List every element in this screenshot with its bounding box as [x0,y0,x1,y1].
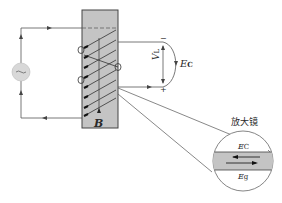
emf-label: EC [180,59,193,69]
eg-subscript: g [244,173,248,181]
magnifier-top-label: EC [238,143,249,151]
arrow-up-icon [161,45,165,50]
voltage-symbol: V [151,54,161,61]
b-field-label: B [94,118,103,129]
arrow-up-icon [19,90,23,95]
arrow-left-icon [42,116,47,120]
arrow-down-icon [161,79,165,84]
emf-subscript: C [187,60,193,69]
ac-source [12,63,30,81]
arrow-up-icon [19,34,23,39]
output-leads [118,42,178,89]
emf-arc [163,42,176,87]
voltage-label: VL [152,49,161,60]
ec-subscript: C [244,143,249,151]
arrow-down-icon [174,61,178,66]
magnifier [210,131,280,191]
magnified-band [210,152,280,170]
voltage-subscript: L [153,49,161,54]
arrow-right-icon [47,26,52,30]
magnifier-title: 放大镜 [231,118,258,127]
arrow-right-icon [147,85,152,89]
minus-sign: − [160,35,167,43]
magnifier-bottom-label: Eg [238,173,248,181]
plus-sign: + [160,86,167,94]
